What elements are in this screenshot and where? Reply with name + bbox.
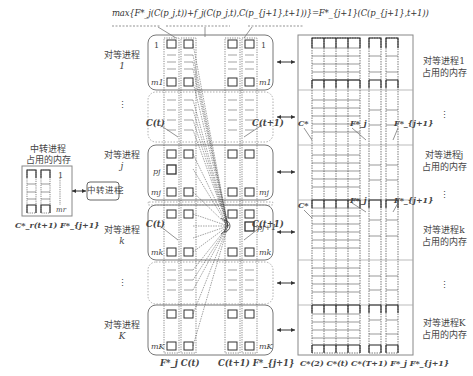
peer-K-label: 对等进程 bbox=[100, 320, 144, 331]
idx-mj: mj bbox=[151, 187, 161, 198]
label-Ct-1: C(t) bbox=[146, 118, 165, 129]
idx-mK-right: mK bbox=[259, 341, 273, 352]
peer-j-label: 对等进程 bbox=[100, 150, 144, 161]
annot-Cstar-2: C* bbox=[298, 200, 309, 211]
bottom-label-right: C(t+1) F*_{j+1} bbox=[218, 358, 295, 369]
idx-mK: mK bbox=[151, 341, 165, 352]
right-ellipsis-3: ⋮ bbox=[415, 280, 473, 291]
ellipsis-1: ⋮ bbox=[100, 100, 144, 111]
idx-m1: m1 bbox=[151, 77, 164, 88]
peer-1-index: 1 bbox=[100, 61, 144, 72]
idx-mk: mk bbox=[151, 247, 163, 258]
peer-K-memory-line1: 对等进程K bbox=[415, 318, 473, 329]
relay-title-line2: 占用的内存 bbox=[18, 155, 78, 166]
bottom-label-left: F*_j C(t) bbox=[160, 358, 200, 369]
annot-Fj1-1: F*_{j+1} bbox=[394, 118, 433, 129]
transition-fan bbox=[193, 44, 228, 346]
peer-K-memory-line2: 占用的内存 bbox=[415, 330, 473, 341]
peer-1-memory-line1: 对等进程1 bbox=[415, 56, 473, 67]
label-Ct-2: C(t) bbox=[146, 219, 165, 230]
annot-Cstar-1: C* bbox=[298, 118, 309, 129]
relay-title-line1: 中转进程 bbox=[18, 144, 78, 155]
ellipsis-2: ⋮ bbox=[100, 186, 144, 197]
idx-top-1: 1 bbox=[154, 40, 159, 51]
col-Fj bbox=[167, 40, 176, 350]
memory-diagram bbox=[0, 0, 473, 376]
peer-1-memory-line2: 占用的内存 bbox=[415, 68, 473, 79]
bidirectional-arrows bbox=[277, 62, 295, 330]
annot-Fj1-2: F*_{j+1} bbox=[394, 195, 433, 206]
annot-Fj-2: F*_j bbox=[350, 195, 367, 206]
label-Ct1-2: C(t+1) bbox=[252, 219, 284, 230]
peer-K-index: K bbox=[100, 331, 144, 342]
idx-top-1-right: 1 bbox=[261, 40, 266, 51]
relay-caption: C*_r(t+1) F*_{j+1} bbox=[15, 220, 85, 231]
peer-j-memory-line1: 对等进程j bbox=[415, 150, 473, 161]
idx-mk-right: mk bbox=[259, 247, 271, 258]
ellipsis-3: ⋮ bbox=[100, 278, 144, 289]
annot-Fj-1: F*_j bbox=[350, 118, 367, 129]
label-Ct1-1: C(t+1) bbox=[252, 118, 284, 129]
peer-k-memory-line1: 对等进程k bbox=[415, 225, 473, 236]
idx-pj: pj bbox=[153, 166, 161, 177]
peer-k-memory-line2: 占用的内存 bbox=[415, 237, 473, 248]
peer-k-index: k bbox=[100, 236, 144, 247]
idx-mj-right: mj bbox=[259, 187, 269, 198]
idx-m1-right: m1 bbox=[259, 77, 272, 88]
peer-1-label: 对等进程 bbox=[100, 50, 144, 61]
right-bottom-caption: C*(2) C*(t) C*(T+1) F*_j F*_{j+1} bbox=[300, 358, 449, 369]
peer-k-label: 对等进程 bbox=[100, 225, 144, 236]
relay-top-index: 1 bbox=[58, 170, 63, 181]
peer-j-index: j bbox=[100, 161, 144, 172]
relay-bottom-index: mr bbox=[56, 205, 66, 216]
peer-j-memory-line2: 占用的内存 bbox=[415, 162, 473, 173]
